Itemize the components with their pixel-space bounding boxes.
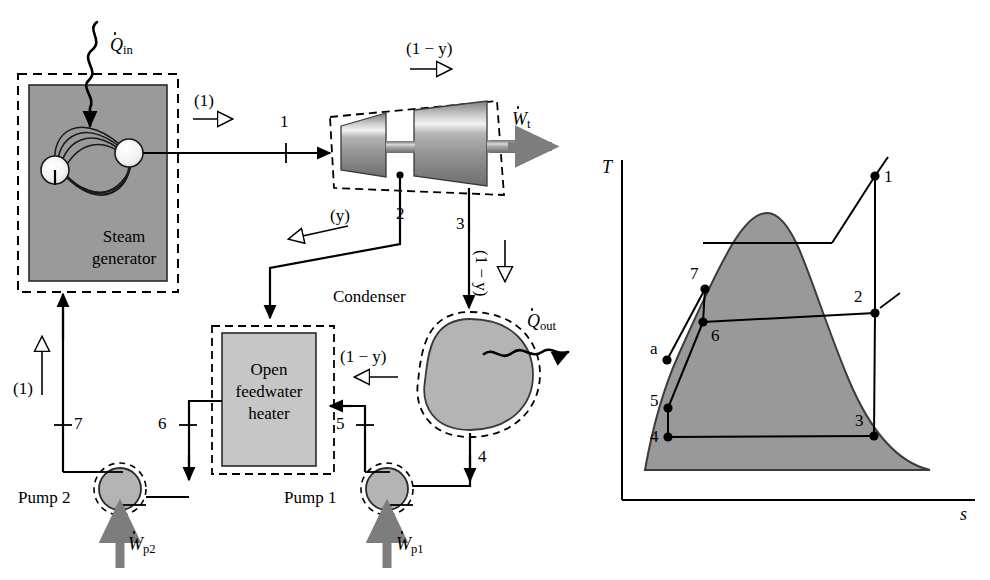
pump-1-label: Pump 1 [284,489,336,506]
q-out-label: Qout [527,312,556,333]
w-pump-1-subscript: p1 [411,542,424,556]
ts-point-3 [869,431,878,440]
fwh-label-line2: feedwater [216,383,322,400]
state-6-label: 6 [158,415,167,432]
w-pump-2-label: Wp2 [128,535,156,556]
state-1-label: 1 [280,113,289,130]
ts-label-a: a [650,340,658,357]
turbine-stage-2 [414,101,487,186]
line-state-1 [143,119,330,163]
frac-y-arrow [289,226,348,239]
frac-turbine-exit-label: (1 − y) [406,40,452,57]
condenser-label: Condenser [333,288,406,305]
ts-label-1: 1 [884,168,893,185]
figure-graphics [0,0,990,580]
fwh-label-line1: Open [222,361,316,378]
ts-label-5: 5 [650,392,659,409]
ts-diagram [622,157,975,500]
turbine-inner-shaft [386,141,415,153]
ts-point-2 [870,308,879,317]
state-3-label: 3 [456,215,465,232]
ts-point-2-leader [880,293,900,308]
frac-condenser-in-label: (1 − y) [473,250,490,296]
state-2-label: 2 [396,205,405,222]
ts-saturation-dome [645,213,930,470]
line-state-4 [413,433,470,486]
ts-point-a [662,355,671,364]
pump-2-label: Pump 2 [18,489,70,506]
pump-1-body [366,468,408,510]
q-in-subscript: in [123,43,133,57]
pipe-6 [189,401,222,480]
steam-generator-label-line2: generator [71,250,177,267]
state-5-label: 5 [336,415,345,432]
state-7-label: 7 [74,415,83,432]
ts-point-4 [663,432,672,441]
w-pump-1-label: Wp1 [396,535,424,556]
pump-2-body [99,468,141,510]
ts-point-1 [870,171,879,180]
frac-extraction-label: (y) [330,207,350,224]
fwh-label-line3: heater [222,405,316,422]
steam-generator-label-line1: Steam [81,228,167,245]
q-out-subscript: out [540,319,556,333]
q-in-label: Qin [110,36,133,57]
ts-x-axis-label: s [960,505,967,523]
state-4-label: 4 [478,448,487,465]
turbine-stage-1 [341,113,386,177]
figure-root: Qin Steam generator (1) 1 (1 − y) Wt (y)… [0,0,990,580]
ts-point-7 [700,284,709,293]
ts-label-2: 2 [854,288,863,305]
ts-label-4: 4 [650,428,659,445]
ts-label-3: 3 [855,412,864,429]
steam-generator-outlet-node [115,139,143,167]
frac-fwh-in-label: (1 − y) [340,348,386,365]
w-turbine-label: Wt [512,110,531,131]
ts-point-5 [663,403,672,412]
ts-point-6 [698,317,707,326]
w-turbine-subscript: t [527,117,531,131]
frac-pump2-out-label: (1) [13,380,33,397]
condenser-body [424,319,533,430]
frac-generator-exit-label: (1) [194,92,214,109]
ts-label-6: 6 [711,327,720,344]
ts-isobar-condenser [668,436,874,437]
ts-expansion-2-3 [874,313,875,436]
w-pump-2-subscript: p2 [143,542,156,556]
ts-superheat-7-1 [832,176,875,243]
ts-y-axis-label: T [602,158,612,176]
pipe-4 [413,433,470,486]
ts-label-7: 7 [690,265,699,282]
